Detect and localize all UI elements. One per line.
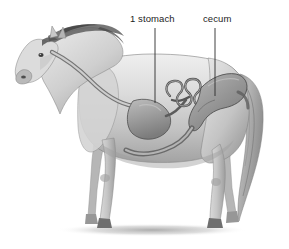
horse-digestive-anatomy-figure: 1 stomach cecum: [0, 0, 289, 249]
label-stomach: 1 stomach: [130, 13, 175, 24]
eye: [38, 53, 43, 57]
nostril: [21, 75, 26, 78]
label-cecum: cecum: [203, 13, 231, 24]
horse-illustration: [0, 0, 289, 249]
